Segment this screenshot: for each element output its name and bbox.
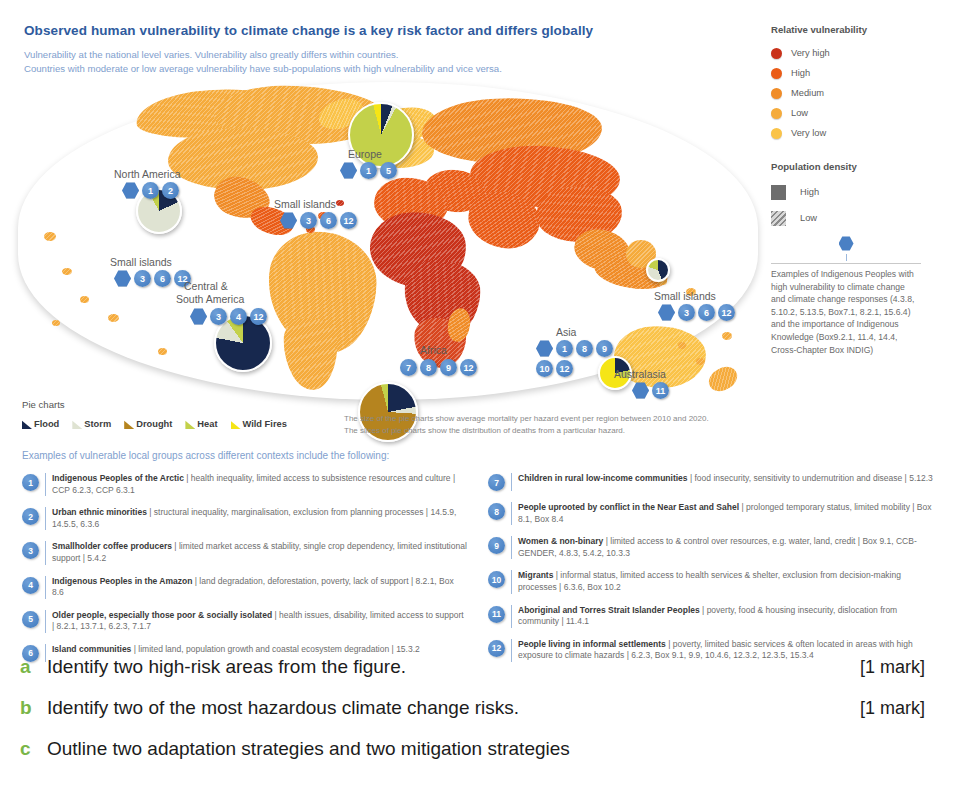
question-text: Outline two adaptation strategies and tw…: [47, 738, 570, 760]
example-title: Migrants: [518, 570, 553, 580]
example-description: | informal status, limited access to hea…: [518, 570, 901, 592]
map-landmass: [705, 362, 742, 396]
map-region-label: Small islands: [110, 256, 172, 268]
question-text: Identify two of the most hazardous clima…: [47, 697, 519, 719]
map-region-badges: 3612: [114, 270, 191, 287]
map-badge-8[interactable]: 8: [420, 359, 437, 376]
map-badge-1[interactable]: 1: [360, 162, 377, 179]
example-item: 11Aboriginal and Torres Strait Islander …: [488, 605, 933, 628]
example-item: 9Women & non-binary | limited access to …: [488, 536, 933, 559]
example-description: | food insecurity, sensitivity to undern…: [688, 473, 933, 483]
map-badge-8[interactable]: 8: [576, 340, 593, 357]
vulnerability-label: Very high: [791, 48, 830, 58]
hex-pin-icon[interactable]: [122, 182, 139, 199]
map-badge-10[interactable]: 10: [536, 360, 553, 377]
map-badge-12[interactable]: 12: [718, 304, 735, 321]
example-text: Older people, especially those poor & so…: [45, 610, 467, 633]
examples-column-right: 7Children in rural low-income communitie…: [488, 473, 933, 673]
map-landmass: [80, 296, 89, 303]
vulnerability-legend-item: Medium: [771, 83, 956, 103]
map-badge-5[interactable]: 5: [380, 162, 397, 179]
hex-pin-icon[interactable]: [632, 382, 649, 399]
map-landmass: [678, 342, 686, 349]
hex-pin-icon[interactable]: [658, 304, 675, 321]
map-badge-12[interactable]: 12: [460, 359, 477, 376]
example-number-badge[interactable]: 10: [488, 571, 505, 588]
vulnerability-legend-item: High: [771, 63, 956, 83]
map-badge-1[interactable]: 1: [142, 182, 159, 199]
vulnerability-swatch: [771, 88, 782, 99]
vulnerability-label: Low: [791, 108, 808, 118]
hex-pin-icon[interactable]: [536, 340, 553, 357]
map-badge-3[interactable]: 3: [210, 308, 227, 325]
map-badge-1[interactable]: 1: [556, 340, 573, 357]
example-number-badge[interactable]: 3: [22, 542, 39, 559]
hazard-swatch: [22, 419, 32, 429]
pie-caption-line2: The slices of pie charts show the distri…: [344, 425, 754, 437]
map-badge-12[interactable]: 12: [250, 308, 267, 325]
map-badge-12[interactable]: 12: [556, 360, 573, 377]
map-badge-3[interactable]: 3: [678, 304, 695, 321]
example-title: Urban ethnic minorities: [52, 507, 147, 517]
pie-chart-asia: [646, 258, 670, 282]
density-high-swatch: [771, 185, 786, 200]
map-badge-4[interactable]: 4: [230, 308, 247, 325]
example-text: Children in rural low-income communities…: [511, 473, 933, 491]
map-badge-2[interactable]: 2: [162, 182, 179, 199]
map-badge-3[interactable]: 3: [134, 270, 151, 287]
example-text: Urban ethnic minorities | structural ine…: [45, 507, 467, 530]
example-item: 7Children in rural low-income communitie…: [488, 473, 933, 491]
map-badge-9[interactable]: 9: [440, 359, 457, 376]
example-number-badge[interactable]: 2: [22, 508, 39, 525]
example-number-badge[interactable]: 1: [22, 474, 39, 491]
map-region-label: North America: [114, 168, 181, 180]
question-mark: [1 mark]: [860, 657, 925, 678]
map-badge-6[interactable]: 6: [154, 270, 171, 287]
indigenous-peoples-note: Examples of Indigenous Peoples with high…: [771, 236, 921, 356]
density-legend-low: Low: [771, 208, 956, 228]
example-number-badge[interactable]: 5: [22, 611, 39, 628]
example-text: People uprooted by conflict in the Near …: [511, 502, 933, 525]
example-number-badge[interactable]: 4: [22, 577, 39, 594]
map-landmass: [336, 200, 344, 206]
map-badge-7[interactable]: 7: [400, 359, 417, 376]
map-region-label: Asia: [556, 326, 576, 338]
hazard-legend-item: Flood: [22, 419, 59, 429]
map-region-label: South America: [176, 293, 244, 305]
vulnerability-swatch: [771, 128, 782, 139]
example-title: Indigenous Peoples in the Amazon: [52, 576, 192, 586]
map-badge-3[interactable]: 3: [300, 212, 317, 229]
map-landmass: [108, 314, 119, 322]
hazard-swatch: [124, 419, 134, 429]
map-landmass: [52, 320, 60, 326]
hazard-label: Heat: [197, 419, 217, 429]
hazard-label: Wild Fires: [243, 419, 287, 429]
map-landmass: [44, 232, 56, 241]
vulnerability-legend-item: Very low: [771, 123, 956, 143]
hazard-swatch: [185, 419, 195, 429]
example-number-badge[interactable]: 8: [488, 503, 505, 520]
example-text: Aboriginal and Torres Strait Islander Pe…: [511, 605, 933, 628]
hex-pin-icon[interactable]: [280, 212, 297, 229]
hex-pin-icon[interactable]: [114, 270, 131, 287]
map-badge-11[interactable]: 11: [652, 382, 669, 399]
map-landmass: [696, 358, 705, 365]
map-badge-12[interactable]: 12: [340, 212, 357, 229]
hazard-legend-item: Storm: [72, 419, 111, 429]
example-number-badge[interactable]: 7: [488, 474, 505, 491]
map-badge-6[interactable]: 6: [320, 212, 337, 229]
hex-pin-icon[interactable]: [340, 162, 357, 179]
map-region-label: Central &: [184, 280, 228, 292]
map-badge-9[interactable]: 9: [596, 340, 613, 357]
density-legend-high: High: [771, 182, 956, 202]
question-row: cOutline two adaptation strategies and t…: [0, 734, 964, 775]
example-number-badge[interactable]: 11: [488, 606, 505, 623]
map-badge-6[interactable]: 6: [698, 304, 715, 321]
density-legend-title: Population density: [771, 161, 956, 172]
density-low-label: Low: [800, 213, 817, 223]
pie-caption-line1: The size of the pie charts show average …: [344, 413, 754, 425]
vulnerability-label: Medium: [791, 88, 824, 98]
example-number-badge[interactable]: 9: [488, 537, 505, 554]
hex-pin-icon[interactable]: [190, 308, 207, 325]
map-region-label: Small islands: [654, 290, 716, 302]
